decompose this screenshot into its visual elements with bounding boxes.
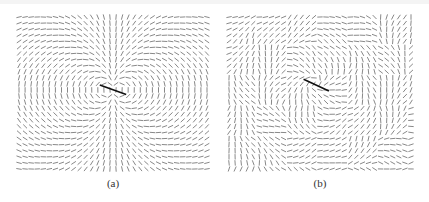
field-vector (180, 29, 185, 30)
field-vector (47, 35, 52, 36)
field-vector (126, 113, 131, 115)
field-vector (60, 106, 64, 110)
field-vector (150, 113, 155, 115)
field-vector (138, 46, 143, 48)
field-vector (54, 106, 57, 110)
field-vector (200, 63, 203, 68)
field-vector (77, 59, 83, 60)
field-vector (380, 20, 381, 25)
field-vector (325, 57, 328, 62)
field-vector (54, 64, 58, 68)
field-vector (367, 112, 370, 117)
field-vector (386, 99, 387, 104)
field-vector (163, 100, 166, 105)
field-vector (205, 46, 209, 50)
top-edge-strip (0, 0, 429, 4)
field-vector (398, 51, 400, 56)
field-vector (361, 149, 364, 154)
field-vector (247, 39, 248, 44)
field-vector (323, 29, 328, 30)
field-vector (257, 113, 262, 115)
field-vector (234, 124, 236, 129)
field-vector (152, 93, 154, 98)
field-vector (294, 40, 298, 43)
field-vector (120, 70, 124, 73)
field-vector (116, 130, 117, 135)
field-vector (150, 41, 155, 42)
field-vector (132, 40, 136, 44)
field-vector (175, 112, 179, 116)
field-vector (368, 63, 370, 68)
field-vector (312, 21, 316, 25)
field-vector (391, 51, 394, 55)
field-vector (138, 120, 143, 121)
field-vector (97, 21, 99, 26)
field-vector (411, 27, 412, 32)
field-vector (114, 82, 118, 85)
vector-field-panel-b (226, 14, 414, 172)
field-vector (293, 138, 298, 139)
field-vector (336, 96, 341, 97)
field-vector (193, 112, 196, 117)
field-vector (366, 155, 371, 158)
field-vector (336, 150, 341, 152)
field-vector (42, 69, 45, 74)
field-vector (170, 100, 172, 105)
field-vector (396, 169, 401, 170)
field-vector (132, 137, 136, 141)
field-vector (232, 17, 237, 18)
field-vector (373, 45, 376, 49)
field-vector (392, 33, 393, 38)
field-vector (349, 45, 352, 50)
field-vector (192, 150, 197, 152)
field-vector (198, 150, 203, 152)
field-vector (337, 57, 339, 62)
field-vector (170, 75, 172, 80)
field-vector (168, 125, 173, 127)
field-vector (187, 52, 191, 55)
field-vector (269, 126, 274, 127)
field-vector (18, 100, 19, 105)
field-vector (281, 144, 286, 146)
field-vector (349, 155, 353, 159)
field-vector (41, 29, 46, 30)
field-vector (65, 156, 70, 158)
field-vector (336, 119, 341, 121)
field-vector (356, 81, 357, 86)
field-vector (409, 58, 413, 62)
field-vector (186, 137, 191, 139)
field-vector (293, 156, 298, 158)
field-vector (59, 126, 64, 128)
field-vector (293, 53, 298, 55)
field-vector (199, 52, 203, 56)
field-vector (17, 124, 21, 128)
field-vector (372, 41, 377, 43)
field-vector (373, 131, 377, 135)
field-vector (90, 155, 93, 159)
field-vector (257, 22, 262, 24)
field-vector (59, 168, 64, 170)
field-vector (366, 162, 371, 164)
field-vector (97, 15, 99, 20)
field-vector (67, 93, 69, 98)
field-vector (299, 77, 304, 79)
field-vector (318, 64, 321, 68)
field-vector (336, 16, 341, 18)
field-vector (156, 16, 161, 18)
field-vector (289, 27, 291, 32)
field-vector (59, 156, 64, 157)
field-vector (294, 21, 297, 26)
field-vector (126, 77, 131, 78)
field-vector (257, 126, 262, 128)
field-vector (271, 69, 272, 74)
field-vector (294, 33, 298, 37)
field-vector (96, 125, 100, 129)
field-vector (380, 81, 381, 86)
field-vector (313, 69, 316, 74)
field-vector (246, 57, 248, 62)
field-vector (317, 163, 322, 164)
field-vector (263, 113, 268, 115)
field-vector (16, 16, 21, 17)
field-vector (180, 138, 185, 140)
field-vector (355, 100, 357, 105)
